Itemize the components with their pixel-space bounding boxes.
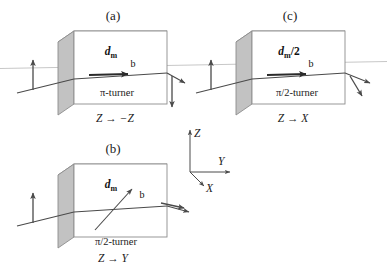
panel-b-box-left-face	[58, 164, 74, 248]
axis-x-label: X	[205, 182, 214, 194]
panel-a-b-field-arrow	[89, 74, 128, 75]
panel-a-thickness-sub: m	[111, 51, 118, 60]
panel-a-box-left-face	[58, 31, 74, 115]
panel-a: (a)	[17, 8, 185, 124]
coordinate-axes: Z Y X	[190, 127, 230, 194]
figure-root: (a)	[0, 0, 387, 266]
panel-b-box-front-face	[74, 164, 167, 237]
panel-a-box	[58, 31, 167, 115]
panel-b-turner-label: π/2-turner	[95, 236, 138, 247]
figure-canvas: (a)	[0, 0, 387, 266]
panel-c-box	[236, 31, 345, 115]
axis-z-label: Z	[194, 127, 201, 139]
panel-a-transform-label: Z → −Z	[96, 112, 134, 124]
panel-b-caption: (b)	[105, 141, 120, 156]
panel-c-box-left-face	[236, 31, 252, 115]
panel-b-b-label: b	[140, 189, 145, 200]
panel-c-caption: (c)	[283, 8, 297, 23]
panel-a-b-label: b	[131, 58, 136, 69]
panel-a-turner-label: π-turner	[100, 87, 134, 98]
panel-b-transform-label: Z → Y	[98, 252, 130, 264]
panel-b-thickness-sub: m	[111, 184, 118, 193]
panel-c-turner-label: π/2-turner	[276, 87, 319, 98]
panel-c-b-field-arrow	[267, 74, 306, 75]
panel-c-b-label: b	[309, 58, 314, 69]
panel-c-thickness-suffix: /2	[290, 45, 300, 57]
panel-c: (c) dm/2	[196, 8, 370, 124]
panel-b: (b) dm	[17, 141, 189, 264]
panel-a-caption: (a)	[106, 8, 120, 23]
panel-c-transform-label: Z → X	[278, 112, 310, 124]
axis-y-label: Y	[218, 155, 226, 167]
axis-x-line	[190, 172, 204, 186]
